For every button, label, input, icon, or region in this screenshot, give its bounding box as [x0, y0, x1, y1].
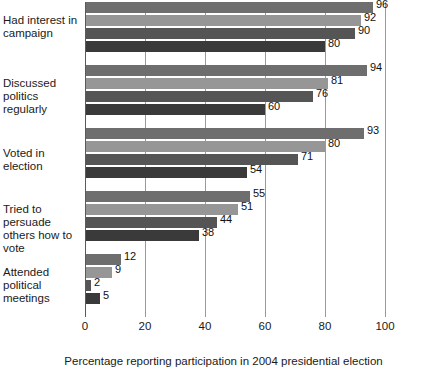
category-label: Attended politicalmeetings: [3, 266, 83, 305]
bar: [85, 230, 199, 241]
bar: [85, 128, 364, 139]
bar-row: 5: [85, 293, 385, 304]
bar-value-label: 94: [367, 62, 382, 73]
bar-row: 38: [85, 230, 385, 241]
bar-row: 81: [85, 78, 385, 89]
bar-value-label: 2: [91, 277, 100, 288]
category-label: Discussed politicsregularly: [3, 77, 83, 116]
bar: [85, 167, 247, 178]
x-tick-label-80: 80: [305, 320, 345, 333]
bar-row: 44: [85, 217, 385, 228]
bar-value-label: 55: [250, 188, 265, 199]
bar: [85, 154, 298, 165]
bar-row: 51: [85, 204, 385, 215]
bar: [85, 15, 361, 26]
x-tick-label-20: 20: [125, 320, 165, 333]
bar-value-label: 38: [199, 227, 214, 238]
bar-row: 92: [85, 15, 385, 26]
bar-row: 80: [85, 41, 385, 52]
bar-value-label: 76: [313, 88, 328, 99]
bar: [85, 141, 325, 152]
bar-value-label: 9: [112, 264, 121, 275]
bar: [85, 204, 238, 215]
bar-row: 71: [85, 154, 385, 165]
bar-value-label: 92: [361, 12, 376, 23]
bar: [85, 2, 373, 13]
bar-value-label: 12: [121, 251, 136, 262]
category-label-line: Voted in election: [3, 147, 83, 173]
bar-value-label: 80: [325, 138, 340, 149]
bar-row: 80: [85, 141, 385, 152]
category-label: Had interest incampaign: [3, 14, 83, 40]
category-label-line: campaign: [3, 27, 83, 40]
category-label-line: Had interest in: [3, 14, 83, 27]
x-axis-label: Percentage reporting participation in 20…: [0, 355, 447, 367]
plot-area: 9692908094817660938071545551443812925: [85, 2, 385, 317]
bar-value-label: 44: [217, 214, 232, 225]
x-tick-label-100: 100: [365, 320, 405, 333]
bar-row: 2: [85, 280, 385, 291]
category-label: Voted in election: [3, 147, 83, 173]
bar-value-label: 54: [247, 164, 262, 175]
bar-value-label: 81: [328, 75, 343, 86]
bar-chart: 9692908094817660938071545551443812925 Ha…: [0, 0, 447, 381]
bar-value-label: 90: [355, 25, 370, 36]
category-label-line: Tried to persuade: [3, 203, 83, 229]
x-tick-label-40: 40: [185, 320, 225, 333]
bar-value-label: 80: [325, 38, 340, 49]
x-tick-label-60: 60: [245, 320, 285, 333]
bar-row: 54: [85, 167, 385, 178]
bar-value-label: 71: [298, 151, 313, 162]
bar: [85, 191, 250, 202]
bar: [85, 41, 325, 52]
bar: [85, 28, 355, 39]
category-label-line: meetings: [3, 292, 83, 305]
category-label-line: Discussed politics: [3, 77, 83, 103]
bar-row: 76: [85, 91, 385, 102]
bar-value-label: 60: [265, 101, 280, 112]
bar-row: 60: [85, 104, 385, 115]
gridline-100: [385, 2, 386, 317]
bar-value-label: 96: [373, 0, 388, 10]
bar-value-label: 5: [100, 290, 109, 301]
y-axis-line: [85, 2, 86, 317]
x-tick-label-0: 0: [65, 320, 105, 333]
category-label-line: others how to vote: [3, 229, 83, 255]
bar: [85, 217, 217, 228]
category-label: Tried to persuadeothers how to vote: [3, 203, 83, 255]
bar-row: 9: [85, 267, 385, 278]
bar-row: 96: [85, 2, 385, 13]
bar: [85, 65, 367, 76]
bar-row: 12: [85, 254, 385, 265]
category-label-line: regularly: [3, 103, 83, 116]
bar: [85, 78, 328, 89]
bar-value-label: 51: [238, 201, 253, 212]
bar-value-label: 93: [364, 125, 379, 136]
bar: [85, 293, 100, 304]
bar: [85, 104, 265, 115]
bar-row: 55: [85, 191, 385, 202]
category-label-line: Attended political: [3, 266, 83, 292]
